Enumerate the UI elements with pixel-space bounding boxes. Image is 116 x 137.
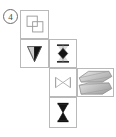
- figure-root: 4: [0, 0, 116, 137]
- cell-overlapping-squares: [20, 10, 49, 39]
- cell-half-shaded-triangle: [20, 39, 49, 68]
- cell-black-diamond: [49, 39, 77, 68]
- half-shaded-down-triangle-icon: [21, 40, 48, 67]
- black-diamond-with-bars-icon: [50, 40, 76, 67]
- overlapping-squares-icon: [21, 11, 48, 38]
- figure-number-label: 4: [3, 9, 18, 24]
- cell-bowtie-outline: [49, 68, 77, 97]
- stacked-shaded-prisms-icon: [78, 69, 113, 96]
- cell-black-hourglass: [49, 97, 77, 128]
- black-hourglass-with-bars-icon: [50, 98, 76, 127]
- bowtie-outline-icon: [50, 69, 76, 96]
- cell-stacked-prisms: [77, 68, 114, 97]
